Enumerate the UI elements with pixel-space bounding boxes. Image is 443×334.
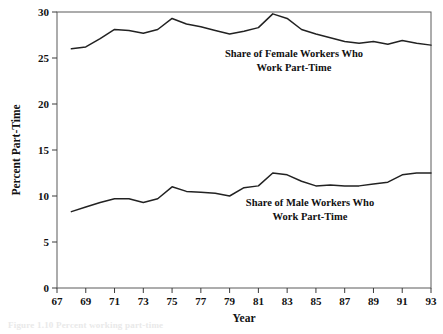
- male-annotation-line: Share of Male Workers Who: [246, 197, 374, 208]
- x-tick-label: 83: [282, 295, 294, 307]
- x-tick-label: 93: [426, 295, 438, 307]
- x-tick-label: 79: [224, 295, 236, 307]
- y-tick-label: 5: [44, 236, 50, 248]
- female-series-line: [71, 14, 431, 49]
- x-tick-label: 89: [368, 295, 380, 307]
- x-axis-title: Year: [233, 312, 256, 324]
- female-annotation-line: Share of Female Workers Who: [225, 48, 363, 59]
- female-annotation-line: Work Part-Time: [257, 62, 332, 73]
- x-tick-label: 85: [310, 295, 322, 307]
- y-tick-label: 15: [38, 144, 50, 156]
- y-tick-label: 20: [38, 98, 50, 110]
- x-tick-label: 75: [167, 295, 179, 307]
- x-tick-label: 73: [138, 295, 150, 307]
- line-chart: 0510152025306769717375777981838587899193…: [0, 0, 443, 334]
- data-series-group: [71, 14, 431, 212]
- y-axis-title: Percent Part-Time: [10, 104, 22, 195]
- x-tick-label: 77: [195, 295, 207, 307]
- x-tick-label: 71: [109, 295, 120, 307]
- x-tick-label: 81: [253, 295, 264, 307]
- y-tick-label: 25: [38, 52, 50, 64]
- y-tick-label: 30: [38, 6, 50, 18]
- male-annotation-line: Work Part-Time: [273, 211, 348, 222]
- y-tick-label: 10: [38, 190, 50, 202]
- x-tick-label: 91: [397, 295, 408, 307]
- chart-page: 0510152025306769717375777981838587899193…: [0, 0, 443, 334]
- y-tick-label: 0: [44, 282, 50, 294]
- x-tick-label: 69: [80, 295, 92, 307]
- x-tick-label: 67: [52, 295, 64, 307]
- figure-caption-fragment: Figure 1.10 Percent working part-time: [8, 320, 163, 330]
- series-annotations: Share of Female Workers WhoWork Part-Tim…: [225, 48, 374, 222]
- x-tick-label: 87: [339, 295, 351, 307]
